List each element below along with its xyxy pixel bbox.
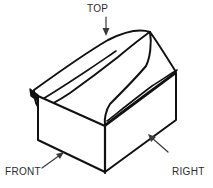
label-top: TOP <box>87 3 108 14</box>
label-right-side-line1: RIGHT <box>172 166 205 177</box>
roof-left-eave-line <box>36 51 116 103</box>
figure-container: TOP FRONT RIGHT SIDE <box>0 0 213 188</box>
label-front: FRONT <box>5 166 41 177</box>
front-gable-face <box>38 96 105 172</box>
top-callout-arrow <box>103 17 110 36</box>
right-side-callout-arrow <box>148 134 168 152</box>
label-right-side: RIGHT SIDE <box>172 144 205 188</box>
front-callout-arrow <box>42 152 64 168</box>
